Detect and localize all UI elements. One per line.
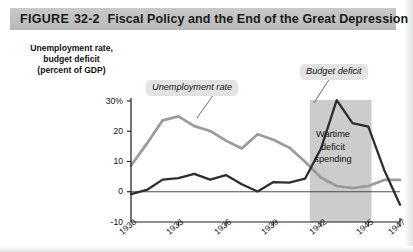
chart-plot-area: -100102030% 1930193319361939194219451947: [0, 0, 413, 252]
band-label-line3: spending: [296, 153, 370, 166]
chart-svg: [0, 0, 413, 252]
y-tick-label: 0: [89, 186, 123, 196]
band-label-line1: Wartime: [296, 128, 370, 141]
y-tick-label: 20: [89, 126, 123, 136]
wartime-band-label: Wartime deficit spending: [296, 128, 370, 166]
callout-unemployment-rate: Unemployment rate: [146, 80, 238, 96]
y-tick-label: 30%: [89, 96, 123, 106]
y-tick-label: -10: [89, 217, 123, 227]
figure-page: FIGURE32-2Fiscal Policy and the End of t…: [0, 0, 413, 252]
y-tick-label: 10: [89, 156, 123, 166]
callout-budget-deficit: Budget deficit: [300, 64, 368, 80]
band-label-line2: deficit: [296, 141, 370, 154]
